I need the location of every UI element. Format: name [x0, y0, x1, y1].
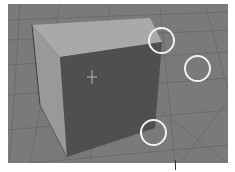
- highlight-circle-bottom-corner: [140, 119, 167, 146]
- highlight-circle-empty-space: [184, 55, 211, 82]
- pointer-line: [175, 160, 176, 170]
- scene-render: [8, 4, 228, 163]
- 3d-viewport[interactable]: [8, 4, 228, 163]
- highlight-circle-top-right-corner: [148, 27, 175, 54]
